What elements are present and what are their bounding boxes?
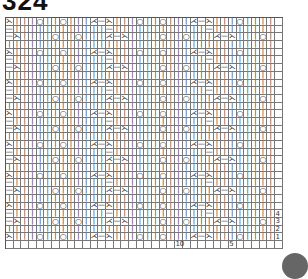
chart-cell: — (206, 149, 214, 157)
row-number: 3 (276, 217, 280, 225)
chart-cell: | (121, 18, 129, 26)
chart-cell: | (214, 72, 222, 80)
chart-cell: | (206, 126, 214, 134)
chart-cell: | (29, 149, 37, 157)
chart-cell: | (98, 226, 106, 234)
chart-cell: ⋋ (14, 95, 22, 103)
chart-cell: | (129, 118, 137, 126)
chart-cell: | (167, 133, 175, 141)
chart-cell: | (244, 203, 252, 211)
chart-cell: ⋋ (106, 110, 114, 118)
chart-cell: | (98, 56, 106, 64)
chart-cell: ○ (52, 218, 60, 226)
chart-cell: | (91, 179, 99, 187)
chart-cell: | (14, 118, 22, 126)
chart-cell: | (14, 149, 22, 157)
chart-cell: ○ (160, 126, 168, 134)
chart-cell: | (175, 179, 183, 187)
chart-cell: | (244, 49, 252, 57)
chart-cell: | (214, 87, 222, 95)
chart-cell: | (252, 126, 260, 134)
chart-cell: | (75, 179, 83, 187)
chart-cell: | (144, 226, 152, 234)
chart-cell: | (237, 103, 245, 111)
chart-cell: | (160, 72, 168, 80)
chart-cell: | (144, 87, 152, 95)
chart-cell: | (206, 33, 214, 41)
chart-cell: | (237, 33, 245, 41)
chart-cell: | (137, 64, 145, 72)
chart-cell: | (267, 187, 275, 195)
chart-cell: | (152, 72, 160, 80)
chart-cell: | (37, 87, 45, 95)
chart-cell: | (175, 172, 183, 180)
chart-cell: — (98, 49, 106, 57)
chart-cell: | (91, 226, 99, 234)
chart-cell: | (29, 179, 37, 187)
chart-cell: | (221, 56, 229, 64)
chart-cell: | (129, 41, 137, 49)
chart-cell: | (221, 72, 229, 80)
chart-cell: | (91, 95, 99, 103)
chart-cell: ⋋ (106, 49, 114, 57)
chart-cell: | (221, 110, 229, 118)
chart-cell: ⋋ (206, 49, 214, 57)
chart-cell: | (144, 203, 152, 211)
chart-cell: | (137, 195, 145, 203)
chart-cell: | (221, 179, 229, 187)
chart-cell: ○ (237, 18, 245, 26)
chart-cell: — (6, 56, 14, 64)
chart-cell: | (183, 141, 191, 149)
chart-cell: | (29, 195, 37, 203)
chart-cell: | (44, 49, 52, 57)
chart-cell: | (137, 72, 145, 80)
chart-cell: | (152, 149, 160, 157)
chart-cell: | (21, 226, 29, 234)
chart-cell: | (183, 26, 191, 34)
chart-cell: ○ (160, 141, 168, 149)
chart-cell: | (52, 226, 60, 234)
chart-cell: ⋋ (206, 233, 214, 241)
chart-cell: ⋌ (214, 95, 222, 103)
chart-cell: ○ (237, 141, 245, 149)
chart-cell: | (129, 203, 137, 211)
chart-cell: ○ (160, 110, 168, 118)
chart-cell: | (44, 18, 52, 26)
chart-cell: | (252, 95, 260, 103)
chart-cell: | (37, 156, 45, 164)
chart-cell: | (21, 172, 29, 180)
chart-cell: — (6, 149, 14, 157)
chart-cell: | (160, 179, 168, 187)
chart-cell: ○ (160, 156, 168, 164)
chart-cell: | (198, 195, 206, 203)
chart-cell: | (144, 49, 152, 57)
chart-cell: | (152, 226, 160, 234)
chart-cell (275, 118, 283, 126)
chart-cell: | (183, 164, 191, 172)
chart-cell: | (29, 33, 37, 41)
chart-cell: | (121, 41, 129, 49)
chart-cell: | (175, 203, 183, 211)
chart-cell: | (60, 64, 68, 72)
chart-cell: — (114, 33, 122, 41)
chart-cell: — (198, 80, 206, 88)
chart-cell: | (229, 110, 237, 118)
chart-cell: ○ (260, 33, 268, 41)
chart-cell: | (114, 110, 122, 118)
chart-cell: | (98, 156, 106, 164)
chart-cell (252, 241, 260, 249)
chart-cell: | (91, 187, 99, 195)
chart-cell: | (206, 164, 214, 172)
chart-cell: ⋌ (214, 156, 222, 164)
chart-cell: | (83, 187, 91, 195)
chart-cell: | (14, 195, 22, 203)
chart-cell: — (98, 141, 106, 149)
chart-cell: | (106, 103, 114, 111)
chart-cell: | (198, 218, 206, 226)
chart-cell: | (137, 126, 145, 134)
chart-cell: | (29, 26, 37, 34)
chart-cell: | (21, 72, 29, 80)
chart-cell: ○ (75, 95, 83, 103)
chart-cell: | (144, 72, 152, 80)
chart-cell (275, 87, 283, 95)
